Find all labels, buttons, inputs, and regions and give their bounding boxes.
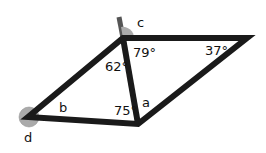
label-37: 37° [205,43,228,58]
label-b: b [59,100,67,115]
label-d: d [24,130,32,145]
label-62: 62° [105,59,128,74]
label-c: c [137,15,144,30]
label-79: 79° [133,45,156,60]
label-75: 75° [114,103,137,118]
angle-diagram: c 79° 37° 62° 75° a b d [0,0,266,153]
label-a: a [142,95,150,110]
